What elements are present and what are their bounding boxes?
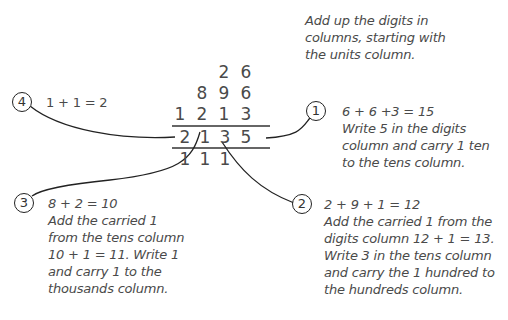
addend-digit: 6 [236,83,256,103]
result-digit: 5 [236,127,256,147]
step-badge-3: 3 [14,193,34,213]
step-2-equation: 2 + 9 + 1 = 12 [324,196,495,213]
step-2-line: the hundreds column. [324,281,495,298]
connector-step-1 [266,118,310,138]
step-3-equation: 8 + 2 = 10 [48,195,184,212]
addend-digit: 8 [192,83,212,103]
step-3-line: and carry 1 to the [48,263,184,280]
step-3-line: Add the carried 1 [48,212,184,229]
intro-line: the units column. [305,46,505,63]
step-1-line: column and carry 1 ten [342,137,490,154]
carry-digit: 1 [215,149,235,169]
step-3-note: 8 + 2 = 10 Add the carried 1 from the te… [48,195,184,297]
step-3-line: 10 + 1 = 11. Write 1 [48,246,184,263]
result-digit: 2 [175,127,195,147]
step-3-line: from the tens column [48,229,184,246]
result-digit: 1 [195,127,215,147]
intro-text: Add up the digits in columns, starting w… [305,12,505,63]
step-1-equation: 6 + 6 +3 = 15 [342,103,490,120]
result-digit: 3 [215,127,235,147]
addend-digit: 1 [170,104,190,124]
step-badge-4: 4 [12,92,32,112]
step-2-note: 2 + 9 + 1 = 12 Add the carried 1 from th… [324,196,495,298]
addend-digit: 2 [192,104,212,124]
addend-digit: 2 [214,62,234,82]
addend-digit: 9 [214,83,234,103]
addend-digit: 1 [214,104,234,124]
step-4-equation: 1 + 1 = 2 [46,94,107,111]
step-1-line: Write 5 in the digits [342,120,490,137]
addend-digit: 6 [236,62,256,82]
step-1-line: to the tens column. [342,154,490,171]
step-2-line: digits column 12 + 1 = 13. [324,230,495,247]
step-2-line: Add the carried 1 from the [324,213,495,230]
step-2-line: Write 3 in the tens column [324,247,495,264]
carry-digit: 1 [175,149,195,169]
step-1-note: 6 + 6 +3 = 15 Write 5 in the digits colu… [342,103,490,171]
step-badge-2: 2 [292,194,312,214]
intro-line: columns, starting with [305,29,505,46]
carry-digit: 1 [195,149,215,169]
addend-digit: 3 [236,104,256,124]
step-3-line: thousands column. [48,280,184,297]
intro-line: Add up the digits in [305,12,505,29]
step-2-line: and carry the 1 hundred to [324,264,495,281]
step-badge-1: 1 [306,101,326,121]
step-4-note: 1 + 1 = 2 [46,94,107,111]
